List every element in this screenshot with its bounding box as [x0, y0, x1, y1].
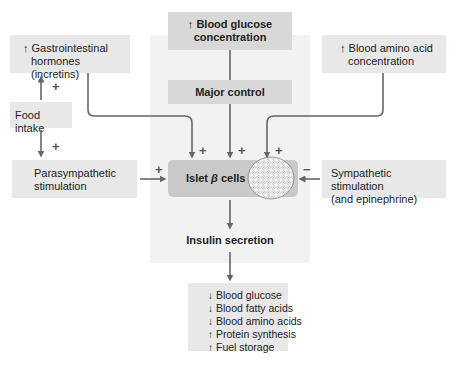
connector-arrows: [0, 0, 453, 368]
sign-gi-to-islet: +: [199, 144, 207, 157]
sign-para-to-islet: +: [155, 163, 163, 176]
sign-amino-to-islet: +: [275, 144, 283, 157]
sign-food-to-para: +: [52, 140, 60, 153]
sign-food-to-gi: +: [52, 80, 60, 93]
sign-control-to-islet: +: [238, 144, 246, 157]
sign-symp-to-islet: −: [303, 163, 311, 176]
